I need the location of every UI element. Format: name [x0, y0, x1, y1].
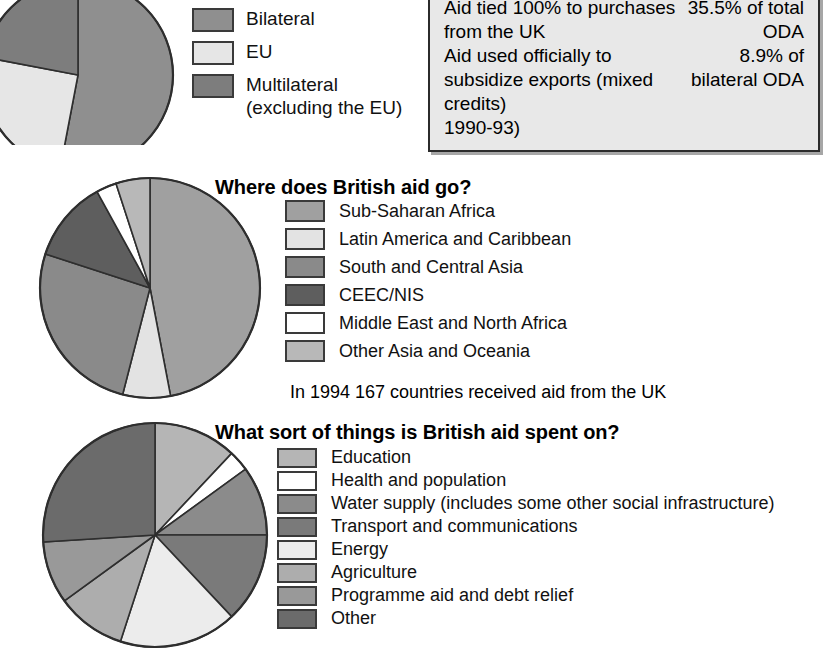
legend-spending-swatch-3 — [277, 517, 317, 537]
legend-destination-swatch-4 — [285, 312, 325, 334]
legend-spending-label-6: Programme aid and debt relief — [331, 585, 573, 606]
legend-spending-swatch-0 — [277, 448, 317, 468]
legend-label-multilateral: Multilateral (excluding the EU) — [246, 73, 402, 119]
legend-item[interactable]: CEEC/NIS — [285, 284, 571, 306]
legend-item[interactable]: Sub-Saharan Africa — [285, 200, 571, 222]
legend-spending-label-5: Agriculture — [331, 562, 417, 583]
legend-spending-label-4: Energy — [331, 539, 388, 560]
pie-svg — [35, 173, 270, 403]
legend-destination-label-0: Sub-Saharan Africa — [339, 200, 495, 222]
legend-item[interactable]: EU — [192, 41, 402, 65]
legend-destination-swatch-1 — [285, 228, 325, 250]
legend-spending-label-7: Other — [331, 608, 376, 629]
heading-where-does-aid-go: Where does British aid go? — [215, 176, 471, 199]
fact-value: 35.5% of total ODA — [686, 0, 804, 44]
legend-item[interactable]: Middle East and North Africa — [285, 312, 571, 334]
legend-spending-swatch-7 — [277, 609, 317, 629]
legend-item[interactable]: Agriculture — [277, 562, 775, 583]
legend-spending-swatch-1 — [277, 471, 317, 491]
legend-destination-swatch-0 — [285, 200, 325, 222]
heading-what-aid-spent-on: What sort of things is British aid spent… — [215, 421, 620, 444]
legend-destination-swatch-3 — [285, 284, 325, 306]
pie-chart-aid-spending — [38, 418, 278, 653]
legend-destination-label-4: Middle East and North Africa — [339, 312, 567, 334]
legend-label-bilateral: Bilateral — [246, 7, 315, 30]
pie-slice[interactable] — [43, 423, 155, 542]
fact-text: Aid tied 100% to purchases from the UK — [444, 0, 686, 44]
legend-item[interactable]: Energy — [277, 539, 775, 560]
legend-swatch-eu — [192, 41, 234, 65]
pie-slice[interactable] — [150, 178, 260, 396]
note-countries-receiving-aid: In 1994 167 countries received aid from … — [290, 381, 666, 403]
legend-spending-label-0: Education — [331, 447, 411, 468]
pie-chart-aid-channel — [0, 0, 175, 145]
legend-swatch-bilateral — [192, 8, 234, 32]
legend-item[interactable]: Other Asia and Oceania — [285, 340, 571, 362]
legend-item[interactable]: Transport and communications — [277, 516, 775, 537]
legend-item[interactable]: Programme aid and debt relief — [277, 585, 775, 606]
legend-spending-label-2: Water supply (includes some other social… — [331, 493, 775, 514]
legend-spending-label-3: Transport and communications — [331, 516, 577, 537]
legend-aid-spending: EducationHealth and populationWater supp… — [277, 447, 775, 631]
legend-aid-channel: Bilateral EU Multilateral (excluding the… — [192, 8, 402, 128]
legend-label-multilateral-sub: (excluding the EU) — [246, 96, 402, 119]
fact-tail: 1990-93) — [430, 116, 818, 140]
pie-chart-aid-destination — [35, 173, 270, 403]
legend-destination-swatch-5 — [285, 340, 325, 362]
fact-value: 8.9% of bilateral ODA — [686, 44, 804, 92]
legend-item[interactable]: Health and population — [277, 470, 775, 491]
legend-item[interactable]: Other — [277, 608, 775, 629]
legend-item[interactable]: Education — [277, 447, 775, 468]
legend-item[interactable]: South and Central Asia — [285, 256, 571, 278]
pie-svg — [38, 418, 278, 653]
legend-swatch-multilateral — [192, 74, 234, 98]
legend-spending-swatch-5 — [277, 563, 317, 583]
pie-svg — [0, 0, 175, 145]
legend-item[interactable]: Bilateral — [192, 8, 402, 32]
legend-spending-swatch-4 — [277, 540, 317, 560]
legend-item[interactable]: Multilateral (excluding the EU) — [192, 74, 402, 119]
legend-destination-label-3: CEEC/NIS — [339, 284, 424, 306]
legend-destination-label-2: South and Central Asia — [339, 256, 523, 278]
legend-destination-label-5: Other Asia and Oceania — [339, 340, 530, 362]
fact-row: Aid used officially to subsidize exports… — [430, 44, 818, 116]
legend-destination-label-1: Latin America and Caribbean — [339, 228, 571, 250]
infographic-canvas: Bilateral EU Multilateral (excluding the… — [0, 0, 827, 653]
legend-item[interactable]: Water supply (includes some other social… — [277, 493, 775, 514]
legend-label-eu: EU — [246, 40, 272, 63]
legend-item[interactable]: Latin America and Caribbean — [285, 228, 571, 250]
legend-spending-swatch-2 — [277, 494, 317, 514]
fact-text: Aid used officially to subsidize exports… — [444, 44, 686, 116]
legend-destination-swatch-2 — [285, 256, 325, 278]
fact-row: Aid tied 100% to purchases from the UK 3… — [430, 0, 818, 44]
legend-aid-destination: Sub-Saharan AfricaLatin America and Cari… — [285, 200, 571, 368]
facts-panel: Aid tied 100% to purchases from the UK 3… — [428, 0, 820, 152]
legend-spending-label-1: Health and population — [331, 470, 506, 491]
legend-spending-swatch-6 — [277, 586, 317, 606]
